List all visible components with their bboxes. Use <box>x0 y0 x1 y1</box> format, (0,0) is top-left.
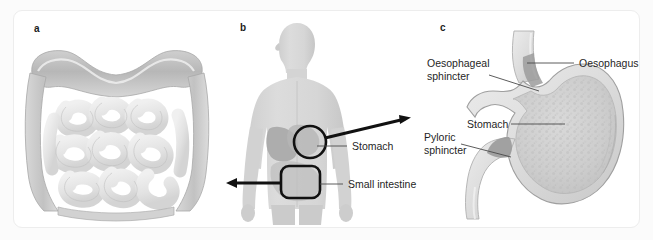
label-oesophageal-sphincter-line1: Oesophageal <box>427 57 489 69</box>
label-stomach: Stomach <box>317 140 394 152</box>
figure-card: a <box>13 10 640 228</box>
pyloric-duodenum-shape <box>466 137 516 219</box>
label-oesophagus-text: Oesophagus <box>579 57 639 69</box>
label-stomach-text: Stomach <box>352 140 394 152</box>
label-small-intestine: Small intestine <box>320 178 416 190</box>
label-small-intestine-text: Small intestine <box>348 178 416 190</box>
panel-b-body: b <box>219 11 419 229</box>
figure-root: a <box>0 0 653 240</box>
label-pyloric-sphincter-line2: sphincter <box>424 144 467 156</box>
stomach-cross-section-illustration: Oesophagus Oesophageal sphincter Stomach… <box>419 11 641 229</box>
panel-c-stomach: c <box>419 11 641 229</box>
oesophagus-shape <box>512 31 543 87</box>
panel-a-intestines: a <box>14 11 219 229</box>
label-stomach-c-text: Stomach <box>467 118 509 130</box>
intestines-illustration <box>14 11 219 229</box>
small-intestine-coils <box>49 103 183 203</box>
body-silhouette-illustration: Stomach Small intestine <box>219 11 419 229</box>
label-oesophageal-sphincter-line2: sphincter <box>427 70 470 82</box>
transverse-colon <box>32 51 202 97</box>
label-oesophagus: Oesophagus <box>527 57 639 69</box>
label-pyloric-sphincter-line1: Pyloric <box>424 131 456 143</box>
